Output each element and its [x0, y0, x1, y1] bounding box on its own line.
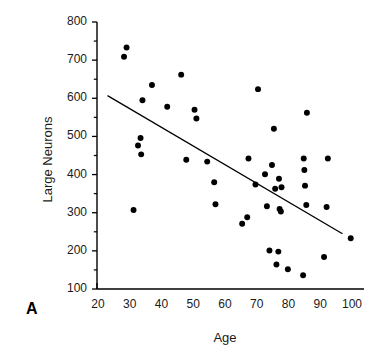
y-tick-label: 500 — [53, 128, 87, 142]
data-point — [348, 235, 354, 241]
data-point — [285, 266, 291, 272]
data-point — [272, 186, 278, 192]
data-point — [178, 72, 184, 78]
data-point — [304, 110, 310, 116]
y-axis-title: Large Neurons — [40, 80, 55, 240]
data-point — [264, 203, 270, 209]
data-point — [131, 207, 137, 213]
y-tick-label: 800 — [53, 14, 87, 28]
data-point — [300, 272, 306, 278]
x-tick-label: 60 — [210, 297, 240, 311]
data-point — [246, 156, 252, 162]
x-tick-label: 70 — [242, 297, 272, 311]
data-point — [273, 262, 279, 268]
x-axis-title: Age — [98, 330, 352, 345]
data-point — [266, 248, 272, 254]
data-point — [271, 126, 277, 132]
data-point — [138, 151, 144, 157]
data-point — [276, 176, 282, 182]
data-point — [183, 157, 189, 163]
data-point — [302, 183, 308, 189]
data-point — [139, 97, 145, 103]
data-point — [121, 54, 127, 60]
data-point — [192, 107, 198, 113]
x-tick-label: 40 — [147, 297, 177, 311]
y-tick-label: 600 — [53, 90, 87, 104]
y-tick-label: 700 — [53, 52, 87, 66]
data-point — [324, 204, 330, 210]
data-point — [193, 116, 199, 122]
data-point — [204, 159, 210, 165]
data-point — [244, 214, 250, 220]
data-point — [262, 171, 268, 177]
data-point — [275, 249, 281, 255]
x-tick-label: 50 — [178, 297, 208, 311]
data-point — [303, 202, 309, 208]
data-point — [301, 167, 307, 173]
data-point — [124, 45, 130, 51]
data-point — [253, 182, 259, 188]
panel-label: A — [26, 300, 38, 318]
data-point — [255, 86, 261, 92]
data-point — [135, 143, 141, 149]
data-point — [278, 209, 284, 215]
data-point — [279, 184, 285, 190]
data-point — [149, 82, 155, 88]
y-tick-label: 100 — [53, 281, 87, 295]
data-point — [164, 104, 170, 110]
x-tick-label: 80 — [274, 297, 304, 311]
x-tick-label: 100 — [337, 297, 367, 311]
data-point — [321, 254, 327, 260]
data-point — [239, 221, 245, 227]
data-point — [213, 201, 219, 207]
data-point — [325, 156, 331, 162]
data-point — [301, 156, 307, 162]
x-tick-label: 20 — [83, 297, 113, 311]
data-point — [269, 162, 275, 168]
data-point — [211, 179, 217, 185]
y-tick-label: 200 — [53, 243, 87, 257]
y-tick-label: 400 — [53, 167, 87, 181]
data-point — [138, 135, 144, 141]
x-tick-label: 90 — [305, 297, 335, 311]
y-tick-label: 300 — [53, 205, 87, 219]
x-tick-label: 30 — [115, 297, 145, 311]
scatter-plot-figure: 100200300400500600700800 203040506070809… — [0, 0, 382, 363]
